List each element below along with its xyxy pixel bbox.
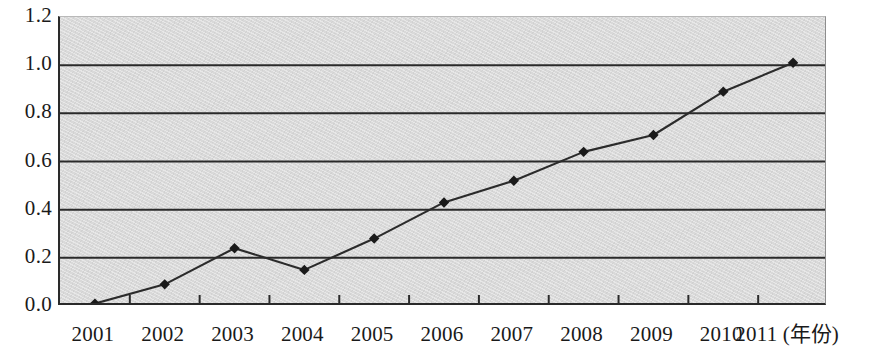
y-axis-tick-label: 1.2 [0, 5, 52, 26]
x-axis-tick-label: 2004 [281, 322, 324, 347]
x-axis-tick-label: 2006 [421, 322, 464, 347]
series-line [95, 63, 793, 304]
data-point-marker [160, 279, 170, 289]
x-axis-tick-label: 2005 [351, 322, 394, 347]
gridlines [60, 65, 826, 258]
x-axis-unit-label: (年份) [783, 322, 839, 346]
y-axis-tick-label: 0.0 [0, 294, 52, 315]
x-axis-tick-label: 2001 [72, 322, 115, 347]
data-point-marker [369, 233, 379, 243]
data-point-marker [718, 86, 728, 96]
data-point-marker [229, 243, 239, 253]
data-point-marker [648, 130, 658, 140]
data-point-marker [299, 265, 309, 275]
x-axis-tick-label: 2008 [560, 322, 603, 347]
y-axis-tick-label: 0.6 [0, 150, 52, 171]
y-axis-tick-label: 1.0 [0, 53, 52, 74]
y-axis-tick-label: 0.8 [0, 101, 52, 122]
x-axis-tick-labels: 2001200220032004200520062007200820092010… [0, 322, 876, 349]
data-point-marker [578, 147, 588, 157]
line-chart: 0.00.20.40.60.81.01.2 200120022003200420… [0, 0, 876, 349]
plot-area [58, 16, 826, 305]
x-axis-tick-label: 2011 (年份) [735, 322, 838, 347]
x-axis-tick-label: 2009 [630, 322, 673, 347]
y-axis-tick-label: 0.2 [0, 246, 52, 267]
data-point-marker [509, 176, 519, 186]
y-axis-tick-labels: 0.00.20.40.60.81.01.2 [0, 0, 52, 349]
x-axis-tick-label: 2003 [211, 322, 254, 347]
y-axis-tick-label: 0.4 [0, 198, 52, 219]
x-axis-ticks [130, 295, 758, 305]
plot-graphics [60, 17, 826, 305]
data-point-marker [788, 58, 798, 68]
x-axis-tick-label: 2007 [490, 322, 533, 347]
data-point-marker [439, 197, 449, 207]
x-axis-tick-label: 2002 [141, 322, 184, 347]
